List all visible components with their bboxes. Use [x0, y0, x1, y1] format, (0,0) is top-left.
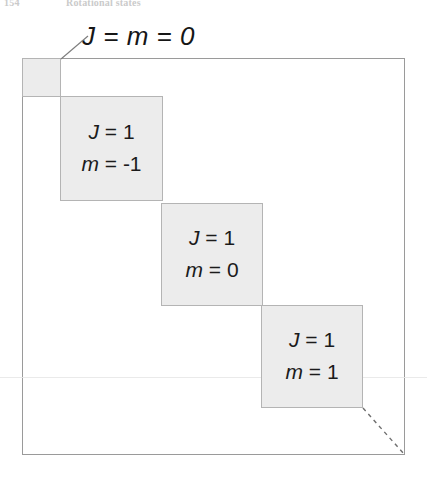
matrix-block-j1-m-minus1: J = 1 m = -1: [60, 96, 163, 201]
block-label-line2: m = 0: [162, 255, 262, 288]
block-label-line1: J = 1: [262, 324, 362, 357]
block-label-group: J = 1 m = -1: [61, 116, 162, 181]
page-canvas: 154 Rotational states J = 1 m = -1 J = 1…: [0, 0, 427, 480]
block-label-line2: m = 1: [262, 357, 362, 390]
matrix-block-j0: [22, 58, 61, 97]
figure-block-diagonal-matrix: J = 1 m = -1 J = 1 m = 0 J = 1 m = 1 J =…: [0, 0, 427, 480]
matrix-block-j1-m0: J = 1 m = 0: [161, 203, 263, 306]
block-label-group: J = 1 m = 1: [262, 324, 362, 389]
callout-label-j-m-zero: J = m = 0: [82, 21, 195, 52]
matrix-block-j1-m1: J = 1 m = 1: [261, 305, 363, 408]
block-label-group: J = 1 m = 0: [162, 222, 262, 287]
block-label-line2: m = -1: [61, 149, 162, 182]
block-label-line1: J = 1: [162, 222, 262, 255]
block-label-line1: J = 1: [61, 116, 162, 149]
